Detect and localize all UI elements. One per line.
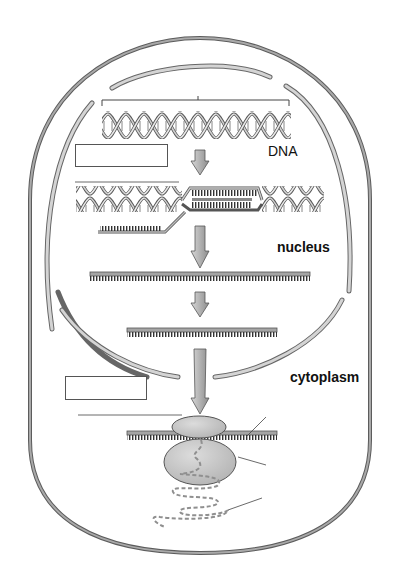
- cell-diagram: [0, 0, 398, 587]
- gene-bracket: [102, 96, 289, 106]
- arrow-down-icon: [191, 349, 209, 414]
- cytoplasm-label: cytoplasm: [290, 369, 359, 385]
- transcription-bubble: [76, 186, 324, 232]
- blank-label-box-transcription[interactable]: [75, 144, 168, 167]
- dna-label: DNA: [268, 143, 298, 159]
- pre-mrna-strand: [90, 272, 310, 281]
- arrow-down-icon: [191, 226, 209, 268]
- dna-double-helix: [102, 111, 291, 139]
- arrow-down-icon: [191, 292, 209, 317]
- blank-label-box-translation[interactable]: [65, 376, 147, 400]
- arrow-down-icon: [191, 150, 209, 175]
- mrna-strand: [127, 328, 277, 337]
- nucleus-label: nucleus: [277, 239, 330, 255]
